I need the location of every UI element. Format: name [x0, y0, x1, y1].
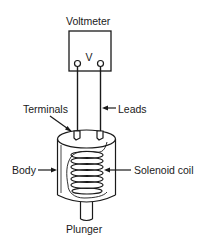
leads-arrowhead: [102, 106, 108, 111]
meter-symbol: V: [86, 51, 93, 63]
solenoid-body: [58, 130, 116, 202]
plunger: [81, 202, 93, 221]
solenoid-voltmeter-diagram: Voltmeter V Terminals Leads Body Solenoi…: [0, 0, 210, 245]
body-label: Body: [12, 164, 37, 176]
terminals-label: Terminals: [23, 103, 68, 115]
leads-label: Leads: [118, 103, 147, 115]
solenoid-coil-label: Solenoid coil: [134, 164, 194, 176]
body-arrowhead: [51, 168, 57, 173]
meter-terminal-left: [75, 61, 81, 67]
plunger-label: Plunger: [66, 223, 103, 235]
terminal-post-left: [74, 131, 80, 140]
voltmeter-label: Voltmeter: [66, 15, 111, 27]
meter-terminal-right: [98, 61, 104, 67]
solenoid-coil: [71, 152, 103, 195]
terminal-post-right: [97, 131, 103, 140]
coil-arrowhead: [104, 168, 110, 173]
